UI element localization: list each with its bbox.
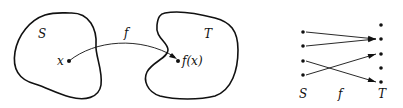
point-fx-label: f(x) (181, 54, 203, 68)
domain-point (301, 44, 305, 48)
domain-point (301, 73, 305, 77)
point-x (67, 59, 71, 63)
arrowhead-icon (368, 54, 376, 59)
codomain-point (379, 66, 383, 70)
codomain-point (379, 37, 383, 41)
codomain-point (379, 80, 383, 84)
map-f-label: f (123, 26, 131, 40)
domain-point (301, 59, 305, 63)
domain-point (301, 30, 305, 34)
mapping-arrow (306, 32, 376, 39)
set-mapping-figure: S f T x f(x) (14, 12, 238, 99)
set-t-label: T (204, 27, 213, 41)
codomain-t-label: T (378, 87, 387, 101)
point-fx (176, 59, 180, 63)
domain-s-label: S (299, 87, 307, 101)
codomain-point (379, 52, 383, 56)
point-x-label: x (57, 54, 64, 68)
codomain-point (379, 23, 383, 27)
set-s-label: S (38, 27, 46, 41)
arrowhead-icon (368, 77, 376, 82)
function-diagram: S f T x f(x) S f T (0, 0, 403, 108)
dot-mapping-figure: S f T (299, 23, 387, 101)
mapping-arrow (306, 39, 376, 46)
map-f-arrow (69, 43, 175, 61)
map-f-label-right: f (337, 87, 345, 101)
